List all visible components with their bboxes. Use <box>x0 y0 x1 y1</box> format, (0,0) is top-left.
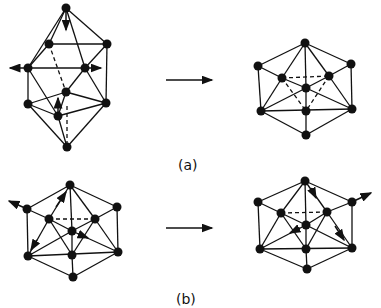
label-a: (a) <box>178 157 198 173</box>
cluster-a-right <box>254 39 357 140</box>
figure-canvas: (a) <box>0 0 381 308</box>
label-b: (b) <box>176 291 196 307</box>
cluster-a-left <box>24 4 112 152</box>
cluster-b-right <box>254 177 357 274</box>
cluster-b-left <box>23 181 123 282</box>
